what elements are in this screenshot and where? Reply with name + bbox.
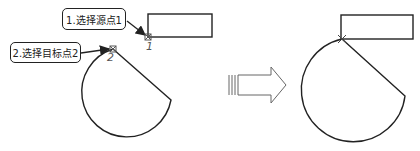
- callout-step1-label: 1.选择源点1: [66, 12, 122, 27]
- diagram-canvas: 1.选择源点1 2.选择目标点2 1 2: [0, 0, 420, 151]
- callout-step1: 1.选择源点1: [62, 8, 126, 30]
- right-arrow-icon: [229, 67, 286, 103]
- source-rectangle: [148, 14, 212, 37]
- after-state: [301, 15, 413, 142]
- point2-label: 2: [107, 51, 114, 64]
- target-arc-shape: [82, 49, 171, 137]
- point1-label: 1: [146, 40, 153, 53]
- target-arc-shape-result: [301, 39, 405, 142]
- callout1-pointer: [127, 21, 145, 35]
- before-state: [81, 14, 212, 137]
- callout-step2: 2.选择目标点2: [10, 42, 81, 63]
- source-rectangle-result: [341, 15, 413, 39]
- callout-step2-label: 2.选择目标点2: [13, 45, 79, 60]
